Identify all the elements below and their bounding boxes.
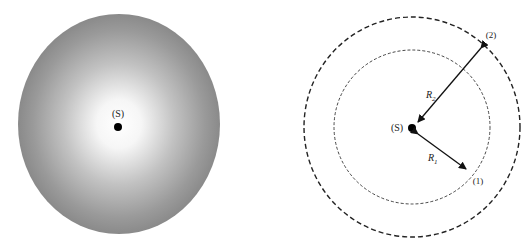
- outer-point-label: (2): [486, 30, 497, 40]
- outer-radius-label: R2: [425, 89, 436, 103]
- inner-point-label: (1): [473, 176, 484, 186]
- inner-radius-label: R1: [427, 152, 438, 166]
- left-panel: (S): [18, 14, 220, 234]
- outer-radius-arrow: [418, 48, 481, 122]
- source-label: (S): [112, 108, 124, 120]
- source-label: (S): [391, 122, 403, 134]
- figure: (S) (S) R2 R1 (2) (1): [0, 0, 530, 249]
- inner-radius-arrow: [418, 134, 466, 169]
- source-dot: [114, 123, 122, 131]
- right-panel: (S) R2 R1 (2) (1): [304, 17, 520, 237]
- source-dot: [408, 124, 416, 132]
